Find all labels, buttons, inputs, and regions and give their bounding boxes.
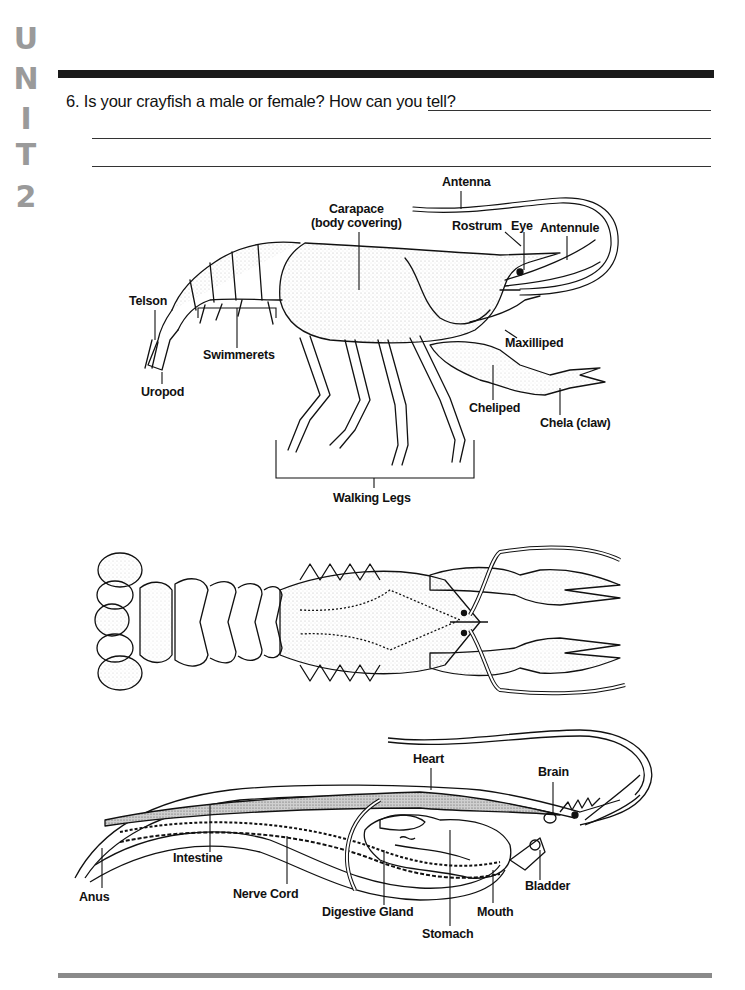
label-antennule: Antennule bbox=[540, 222, 599, 236]
label-carapace: Carapace (body covering) bbox=[311, 203, 402, 231]
footer-rule bbox=[58, 973, 712, 978]
label-bladder: Bladder bbox=[525, 880, 570, 894]
label-mouth: Mouth bbox=[477, 906, 513, 920]
label-heart: Heart bbox=[413, 753, 444, 767]
label-cheliped: Cheliped bbox=[469, 402, 520, 416]
label-intestine: Intestine bbox=[173, 852, 223, 866]
label-antenna: Antenna bbox=[442, 176, 491, 190]
label-nerve-cord: Nerve Cord bbox=[233, 888, 298, 902]
crayfish-internal-view-drawing bbox=[75, 730, 652, 900]
label-anus: Anus bbox=[79, 891, 109, 905]
label-maxilliped: Maxilliped bbox=[505, 337, 563, 351]
label-carapace-subtitle: (body covering) bbox=[311, 217, 402, 231]
label-carapace-title: Carapace bbox=[311, 203, 402, 217]
label-stomach: Stomach bbox=[422, 928, 473, 942]
label-walking-legs: Walking Legs bbox=[333, 492, 411, 506]
label-chela: Chela (claw) bbox=[540, 417, 611, 431]
label-telson: Telson bbox=[129, 295, 167, 309]
label-swimmerets: Swimmerets bbox=[203, 349, 275, 363]
label-digestive-gland: Digestive Gland bbox=[322, 906, 413, 920]
label-eye: Eye bbox=[511, 220, 533, 234]
label-rostrum: Rostrum bbox=[452, 220, 502, 234]
label-uropod: Uropod bbox=[141, 386, 184, 400]
crayfish-dorsal-view-drawing bbox=[95, 547, 625, 693]
label-brain: Brain bbox=[538, 766, 569, 780]
